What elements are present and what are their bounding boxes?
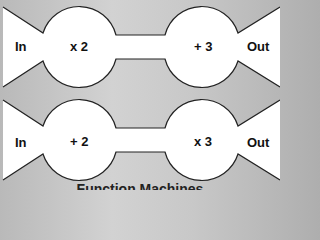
machine-2-output-label: Out <box>247 136 269 149</box>
machine-2-input-label: In <box>15 136 27 149</box>
machine-2-step-1: + 2 <box>70 135 88 148</box>
machine-1-shape <box>3 7 280 88</box>
caption: Function Machines <box>0 181 280 190</box>
machine-1-input-label: In <box>15 40 27 53</box>
machine-1-step-2: + 3 <box>194 40 212 53</box>
machine-1-output-label: Out <box>247 40 269 53</box>
function-machines-diagram <box>0 0 280 190</box>
machine-2-shape <box>3 100 280 181</box>
machine-1-step-1: x 2 <box>70 40 88 53</box>
machine-2-step-2: x 3 <box>194 135 212 148</box>
